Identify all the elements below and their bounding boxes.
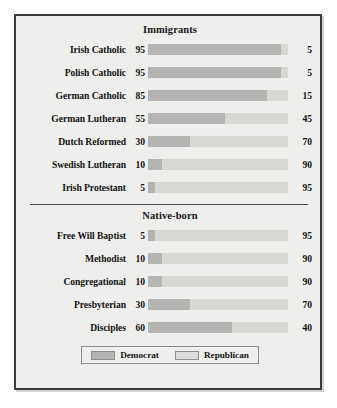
row-value-democrat: 10 [130,253,148,264]
row-bar [148,253,288,264]
row-value-republican: 5 [288,44,312,55]
bar-segment-republican [232,322,288,333]
chart-row: Dutch Reformed3070 [22,130,312,153]
bar-segment-republican [155,182,288,193]
chart-row: German Catholic8515 [22,84,312,107]
bar-segment-democrat [148,299,190,310]
row-label: Swedish Lutheran [22,159,130,170]
bar-segment-democrat [148,253,162,264]
row-value-democrat: 10 [130,276,148,287]
row-label: Dutch Reformed [22,136,130,147]
section-rows-immigrants: Irish Catholic955Polish Catholic955Germa… [22,38,312,199]
row-value-republican: 90 [288,253,312,264]
row-value-republican: 90 [288,159,312,170]
bar-segment-democrat [148,113,225,124]
chart-row: Presbyterian3070 [22,293,312,316]
legend-box: Democrat Republican [81,346,259,364]
bar-segment-democrat [148,159,162,170]
legend-item-republican: Republican [175,350,249,360]
row-value-republican: 90 [288,276,312,287]
bar-segment-republican [190,136,288,147]
row-value-republican: 70 [288,136,312,147]
bar-segment-republican [267,90,288,101]
row-label: Methodist [22,253,130,264]
chart-row: Methodist1090 [22,247,312,270]
row-value-republican: 70 [288,299,312,310]
row-value-democrat: 95 [130,67,148,78]
chart-row: Disciples6040 [22,316,312,339]
chart-row: Congregational1090 [22,270,312,293]
section-rows-native-born: Free Will Baptist595Methodist1090Congreg… [22,224,312,339]
section-divider [30,204,308,205]
row-bar [148,44,288,55]
bar-segment-democrat [148,182,155,193]
row-bar [148,90,288,101]
bar-segment-democrat [148,67,281,78]
bar-segment-democrat [148,44,281,55]
row-bar [148,159,288,170]
row-label: Presbyterian [22,299,130,310]
row-label: Polish Catholic [22,67,130,78]
row-value-democrat: 85 [130,90,148,101]
row-value-democrat: 55 [130,113,148,124]
row-label: Disciples [22,322,130,333]
row-bar [148,182,288,193]
row-bar [148,67,288,78]
row-label: Irish Protestant [22,182,130,193]
row-label: German Lutheran [22,113,130,124]
bar-segment-republican [281,67,288,78]
row-value-democrat: 5 [130,182,148,193]
chart-inner: Immigrants Irish Catholic955Polish Catho… [16,16,320,388]
row-bar [148,230,288,241]
bar-segment-republican [281,44,288,55]
bar-segment-republican [190,299,288,310]
bar-segment-republican [162,253,288,264]
bar-segment-republican [155,230,288,241]
legend: Democrat Republican [22,346,312,364]
row-bar [148,113,288,124]
row-bar [148,276,288,287]
bar-segment-democrat [148,322,232,333]
chart-row: Free Will Baptist595 [22,224,312,247]
bar-segment-republican [162,276,288,287]
chart-figure: Immigrants Irish Catholic955Polish Catho… [14,14,322,390]
legend-item-democrat: Democrat [91,350,159,360]
row-value-republican: 5 [288,67,312,78]
chart-row: Irish Catholic955 [22,38,312,61]
chart-row: Polish Catholic955 [22,61,312,84]
legend-label-democrat: Democrat [120,350,159,360]
row-value-republican: 95 [288,230,312,241]
section-title-native-born: Native-born [22,208,312,223]
row-value-republican: 45 [288,113,312,124]
bar-segment-democrat [148,136,190,147]
legend-swatch-democrat-icon [91,351,115,360]
row-value-republican: 15 [288,90,312,101]
legend-swatch-republican-icon [175,351,199,360]
bar-segment-republican [162,159,288,170]
bar-segment-democrat [148,230,155,241]
row-value-democrat: 95 [130,44,148,55]
section-title-immigrants: Immigrants [22,22,312,37]
row-label: Congregational [22,276,130,287]
legend-label-republican: Republican [204,350,249,360]
chart-row: Irish Protestant595 [22,176,312,199]
row-label: German Catholic [22,90,130,101]
row-bar [148,136,288,147]
row-value-democrat: 30 [130,299,148,310]
row-value-democrat: 60 [130,322,148,333]
row-value-democrat: 30 [130,136,148,147]
bar-segment-democrat [148,90,267,101]
bar-segment-democrat [148,276,162,287]
bar-segment-republican [225,113,288,124]
chart-row: Swedish Lutheran1090 [22,153,312,176]
chart-row: German Lutheran5545 [22,107,312,130]
row-value-democrat: 5 [130,230,148,241]
row-bar [148,322,288,333]
row-value-republican: 40 [288,322,312,333]
row-value-republican: 95 [288,182,312,193]
row-bar [148,299,288,310]
row-value-democrat: 10 [130,159,148,170]
row-label: Free Will Baptist [22,230,130,241]
row-label: Irish Catholic [22,44,130,55]
